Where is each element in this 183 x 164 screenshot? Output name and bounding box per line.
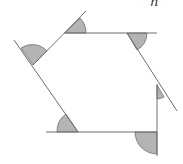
hexagon-diagram [0, 0, 183, 164]
exterior-angle-4 [135, 132, 157, 154]
exterior-angle-3 [157, 85, 164, 99]
exterior-angle-1 [65, 18, 86, 33]
exterior-angle-2 [127, 33, 147, 50]
edge-left [14, 40, 78, 132]
edge-upper-left [33, 11, 86, 65]
edge-right-slanted [127, 33, 177, 111]
